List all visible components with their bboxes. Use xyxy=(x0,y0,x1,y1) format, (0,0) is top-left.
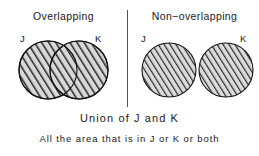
set-label-right-k: K xyxy=(240,33,246,44)
caption-union-title: Union of J and K xyxy=(0,112,259,124)
non-overlapping-set-k xyxy=(199,43,253,97)
caption-union-description: All the area that is in J or K or both xyxy=(0,133,259,144)
set-label-left-k: K xyxy=(95,33,101,44)
set-label-left-j: J xyxy=(20,33,25,44)
non-overlapping-set-j xyxy=(142,43,196,97)
venn-diagram-figure: Overlapping Non−overlapping xyxy=(0,0,259,156)
set-label-right-j: J xyxy=(141,33,146,44)
